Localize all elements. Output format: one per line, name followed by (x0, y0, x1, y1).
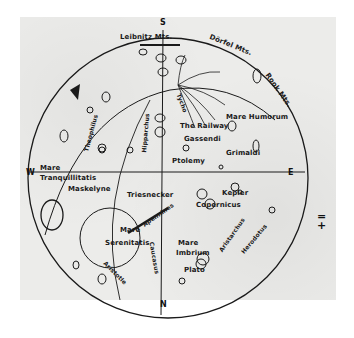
direction-north-label: N (160, 300, 167, 309)
label-mare-serenitatis-2: Serenitatis (105, 240, 149, 247)
label-mare-tranquillitatis-1: Mare (40, 165, 60, 172)
label-ptolemy: Ptolemy (172, 158, 205, 165)
label-copernicus: Copernicus (196, 202, 241, 209)
label-grimaldi: Grimaldi (226, 150, 260, 157)
label-triesnecker: Triesnecker (127, 192, 173, 199)
label-kepler: Kepler (222, 190, 248, 197)
label-mare-humorum: Mare Humorum (226, 114, 288, 121)
label-plato: Plato (184, 267, 205, 274)
label-mare-serenitatis-1: Mare (120, 227, 140, 234)
direction-east-label: E (288, 168, 293, 177)
label-mare-imbrium-1: Mare (178, 240, 198, 247)
label-maskelyne: Maskelyne (68, 186, 111, 193)
direction-south-label: S (160, 18, 166, 27)
label-mare-tranquillitatis-2: Tranquillitatis (40, 175, 96, 182)
label-mare-imbrium-2: Imbrium (176, 250, 210, 257)
label-leibnitz-mts: Leibnitz Mts. (120, 34, 172, 41)
label-gassendi: Gassendi (184, 136, 221, 143)
direction-west-label: W (26, 168, 35, 177)
side-margin-mark: = + (317, 212, 326, 230)
label-the-railway: The Railway (180, 123, 229, 130)
